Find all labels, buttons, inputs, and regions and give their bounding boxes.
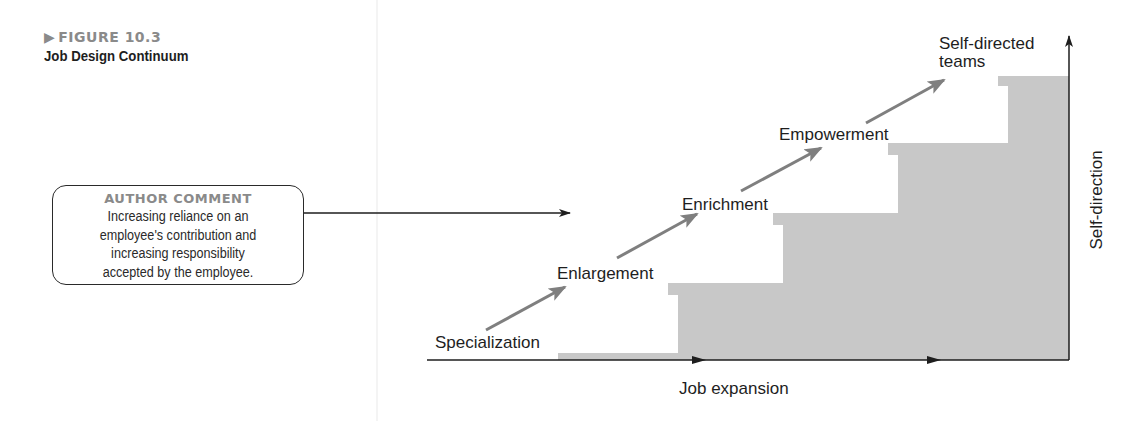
x-axis-label: Job expansion	[679, 379, 789, 398]
stage-label-self-directed-line2: teams	[939, 52, 985, 71]
progress-arrow-2	[617, 214, 697, 258]
stage-label-specialization: Specialization	[435, 333, 540, 352]
progress-arrow-4	[866, 80, 944, 123]
progress-arrow-3	[741, 148, 821, 191]
stage-label-enrichment: Enrichment	[682, 195, 768, 214]
staircase-steps	[558, 76, 1069, 360]
stage-label-enlargement: Enlargement	[557, 264, 653, 283]
stage-label-empowerment: Empowerment	[779, 125, 889, 144]
progress-arrow-1	[486, 287, 565, 330]
y-axis-label: Self-direction	[1087, 150, 1107, 249]
stage-label-self-directed-line1: Self-directed	[939, 34, 1034, 53]
